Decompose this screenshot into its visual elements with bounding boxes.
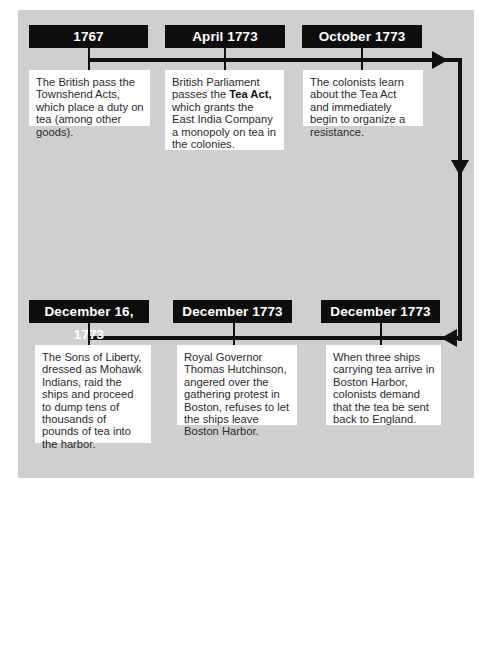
event-connector: [380, 323, 382, 345]
event-description-boston-tea-party: The Sons of Liberty, dressed as Mohawk I…: [35, 345, 151, 443]
event-date-december-16-1773: December 16, 1773: [29, 300, 149, 323]
event-date-december-1773-hutchinson: December 1773: [173, 300, 292, 323]
event-date-1767: 1767: [29, 25, 148, 48]
event-connector: [361, 48, 363, 70]
event-connector: [233, 323, 235, 345]
event-date-april-1773: April 1773: [165, 25, 285, 48]
event-connector: [88, 323, 90, 345]
right-arrow-icon: [432, 51, 448, 69]
event-description-ships-arrive: When three ships carrying tea arrive in …: [326, 345, 441, 425]
event-text-part: which grants the East India Company a mo…: [172, 101, 276, 150]
left-arrow-icon: [441, 329, 457, 347]
event-description-april-1773: British Parliament passes the Tea Act, w…: [165, 70, 284, 150]
tea-act-bold-text: Tea Act,: [229, 88, 271, 100]
right-timeline-line: [458, 58, 462, 341]
bottom-timeline-line: [89, 336, 462, 340]
event-connector: [224, 48, 226, 70]
event-connector: [88, 48, 90, 70]
top-timeline-line: [89, 58, 461, 62]
event-date-october-1773: October 1773: [302, 25, 422, 48]
event-date-december-1773-ships-arrive: December 1773: [321, 300, 440, 323]
event-description-october-1773: The colonists learn about the Tea Act an…: [303, 70, 423, 126]
event-description-hutchinson: Royal Governor Thomas Hutchinson, angere…: [177, 345, 297, 425]
down-arrow-icon: [451, 160, 469, 176]
event-description-1767: The British pass the Townshend Acts, whi…: [29, 70, 150, 126]
